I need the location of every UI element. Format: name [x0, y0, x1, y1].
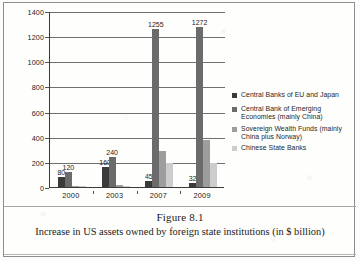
- y-axis-tick-label: 1000: [28, 58, 44, 67]
- y-axis-tick-label: 600: [32, 108, 44, 117]
- y-axis-tick: [45, 87, 49, 88]
- y-axis-tick: [45, 138, 49, 139]
- legend-label: Central Bank of Emerging Economies (main…: [241, 105, 354, 121]
- legend-swatch-icon: [232, 146, 237, 151]
- x-axis-tick-label: 2000: [49, 191, 93, 203]
- bar-groups: 80120160240451255321272: [50, 11, 225, 187]
- legend-label: Central Banks of EU and Japan: [241, 91, 339, 99]
- legend-item-chinese-state-banks: Chinese State Banks: [232, 144, 354, 152]
- y-axis-labels: 1400120010008006004002000: [10, 12, 44, 192]
- legend-label: Sovereign Wealth Funds (mainly China plu…: [241, 125, 354, 141]
- legend-label: Chinese State Banks: [241, 144, 306, 152]
- legend-item-central-banks-eu-japan: Central Banks of EU and Japan: [232, 91, 354, 99]
- bar: [210, 163, 217, 187]
- bar: [123, 186, 130, 187]
- bar: 45: [145, 181, 152, 187]
- bar-value-label: 120: [62, 164, 74, 171]
- legend-swatch-icon: [232, 127, 237, 132]
- y-axis-tick: [45, 163, 49, 164]
- bar: 1272: [196, 27, 203, 187]
- legend-swatch-icon: [232, 93, 237, 98]
- bar-group: 451255: [138, 11, 182, 187]
- x-axis-labels: 2000200320072009: [49, 191, 224, 203]
- bar: [166, 163, 173, 187]
- caption-title: Figure 8.1: [4, 211, 356, 223]
- x-axis-tick: [93, 191, 94, 194]
- bar: 32: [189, 183, 196, 187]
- x-axis-tick-label: 2003: [93, 191, 137, 203]
- caption-divider: [4, 206, 356, 207]
- legend-item-central-bank-emerging-economies: Central Bank of Emerging Economies (main…: [232, 105, 354, 121]
- x-axis-tick-label: 2009: [180, 191, 224, 203]
- y-axis-tick-label: 1200: [28, 33, 44, 42]
- y-axis-tick-label: 1400: [28, 8, 44, 17]
- bar-value-label: 1272: [192, 19, 208, 26]
- y-axis-tick: [45, 188, 49, 189]
- y-axis-tick-label: 800: [32, 83, 44, 92]
- x-axis-tick: [137, 191, 138, 194]
- bar-value-label: 240: [106, 149, 118, 156]
- figure-page: 1400120010008006004002000 80120160240451…: [0, 0, 360, 261]
- bar: [116, 185, 123, 188]
- bar-group: 321272: [181, 11, 225, 187]
- bar-value-label: 1255: [148, 21, 164, 28]
- bar: [159, 151, 166, 187]
- bar: [203, 140, 210, 187]
- chart-legend: Central Banks of EU and Japan Central Ba…: [232, 91, 354, 158]
- bar-group: 80120: [50, 11, 94, 187]
- bar: [79, 186, 86, 187]
- bar: 1255: [152, 29, 159, 187]
- x-axis-tick: [180, 191, 181, 194]
- legend-swatch-icon: [232, 107, 237, 112]
- plot-area: 80120160240451255321272: [49, 12, 224, 188]
- bar: 160: [102, 167, 109, 187]
- y-axis-tick: [45, 113, 49, 114]
- y-axis-tick: [45, 37, 49, 38]
- x-axis-tick-label: 2007: [137, 191, 181, 203]
- y-axis-tick: [45, 62, 49, 63]
- y-axis-tick-label: 400: [32, 133, 44, 142]
- legend-item-sovereign-wealth-funds: Sovereign Wealth Funds (mainly China plu…: [232, 125, 354, 141]
- figure-frame: 1400120010008006004002000 80120160240451…: [3, 2, 355, 257]
- bar: [72, 186, 79, 187]
- caption-subtitle: Increase in US assets owned by foreign s…: [4, 226, 356, 237]
- bar: 240: [109, 157, 116, 187]
- bar-group: 160240: [94, 11, 138, 187]
- bar: 120: [65, 172, 72, 187]
- y-axis-tick-label: 200: [32, 158, 44, 167]
- y-axis-tick: [45, 12, 49, 13]
- bar: 80: [58, 177, 65, 187]
- y-axis-tick-label: 0: [40, 184, 44, 193]
- bottom-divider: [4, 254, 356, 255]
- figure-caption: Figure 8.1 Increase in US assets owned b…: [4, 211, 356, 237]
